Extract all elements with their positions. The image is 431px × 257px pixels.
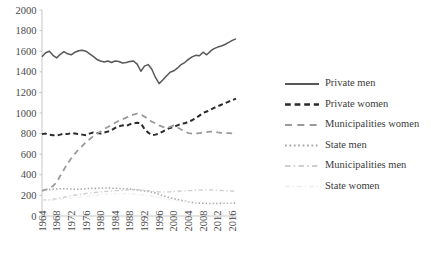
series-line-municipalities-men <box>42 190 236 201</box>
legend-label-municipalities-women: Municipalities women <box>325 118 420 129</box>
x-axis-tick-label: 2016 <box>227 211 238 232</box>
y-axis-tick-label: 600 <box>21 149 37 160</box>
y-axis-tick-label: 1200 <box>16 87 37 98</box>
x-axis-tick-label: 1972 <box>66 211 77 232</box>
legend-label-state-women: State women <box>325 180 380 191</box>
legend-label-private-men: Private men <box>325 77 376 88</box>
legend-label-state-men: State men <box>325 139 367 150</box>
legend-label-private-women: Private women <box>325 98 389 109</box>
x-axis-tick-label: 1964 <box>37 210 48 232</box>
x-axis-tick-label: 2012 <box>212 211 223 232</box>
plot-series-group <box>42 39 236 204</box>
x-axis-tick-label: 1984 <box>110 210 121 232</box>
x-axis-tick-label: 1992 <box>139 211 150 232</box>
x-axis-tick-label: 2004 <box>183 210 194 232</box>
x-axis-tick-label: 1988 <box>124 211 135 232</box>
y-axis-tick-label: 800 <box>21 128 37 139</box>
series-line-municipalities-women <box>42 114 236 191</box>
y-axis-group: 0200400600800100012001400160018002000 <box>16 5 43 222</box>
series-line-private-women <box>42 99 236 136</box>
chart-canvas: 0200400600800100012001400160018002000 19… <box>0 0 431 257</box>
y-axis-tick-label: 1400 <box>16 66 37 77</box>
y-axis-tick-label: 2000 <box>16 5 37 16</box>
x-axis-tick-label: 1996 <box>154 211 165 232</box>
x-axis-tick-label: 2008 <box>198 211 209 232</box>
x-axis-tick-label: 1968 <box>51 211 62 232</box>
series-line-state-women <box>42 194 236 203</box>
x-axis-tick-label: 1980 <box>95 211 106 232</box>
legend-label-municipalities-men: Municipalities men <box>325 159 407 170</box>
y-axis-tick-label: 1800 <box>16 25 37 36</box>
y-axis-tick-label: 400 <box>21 169 37 180</box>
y-axis-tick-label: 200 <box>21 190 37 201</box>
y-axis-tick-label: 1600 <box>16 46 37 57</box>
x-axis-tick-label: 1976 <box>81 211 92 232</box>
x-axis-group: 1964196819721976198019841988199219962000… <box>37 210 238 232</box>
series-line-private-men <box>42 39 236 84</box>
x-axis-tick-label: 2000 <box>168 211 179 232</box>
legend-group: Private menPrivate womenMunicipalities w… <box>285 77 420 191</box>
y-axis-tick-label: 1000 <box>16 108 37 119</box>
line-chart-figure: 0200400600800100012001400160018002000 19… <box>0 0 431 257</box>
